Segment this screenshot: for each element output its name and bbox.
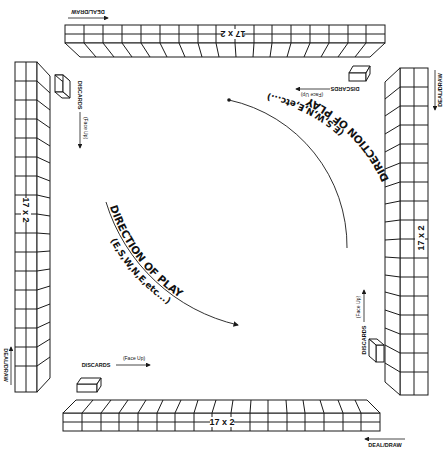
right-deal-draw-label: DEAL/DRAW [437, 73, 443, 107]
left-discard-tile [55, 75, 70, 98]
bottom-discards-label: DISCARDS [82, 362, 111, 368]
right-discard-tile [369, 339, 384, 362]
arc-start-dot [227, 98, 231, 102]
top-discards-label: DISCARDS [330, 86, 359, 92]
top-deal-draw-label: DEAL/DRAW [71, 9, 105, 15]
bottom-face-up-label: (Face Up) [123, 355, 146, 361]
right-discards-label: DISCARDS [361, 325, 367, 354]
bottom-wall-label: 17 x 2 [209, 417, 234, 427]
left-discards-label: DISCARDS [77, 81, 83, 110]
left-deal-draw-label: DEAL/DRAW [3, 348, 9, 382]
mahjong-table-diagram: 17 x 2 DEAL/DRAW DISCARDS (Face Up) [0, 0, 443, 457]
left-face-up-label: (Face Up) [83, 117, 89, 140]
direction-upper-title: DIRECTION OF PLAY [304, 96, 391, 184]
bottom-discard-tile [77, 378, 101, 392]
top-wall-label: 17 x 2 [220, 29, 245, 39]
bottom-deal-draw-label: DEAL/DRAW [368, 442, 402, 448]
left-wall-label: 17 x 2 [21, 197, 31, 222]
right-face-up-label: (Face Up) [355, 296, 361, 319]
left-wall [15, 62, 50, 392]
right-wall-label: 17 x 2 [416, 225, 426, 250]
direction-of-play-lower: DIRECTION OF PLAY (E,S,W,N,E,etc...) [106, 202, 238, 325]
direction-of-play-upper: DIRECTION OF PLAY (E,S,W,N,E,etc...) [227, 92, 391, 248]
top-discard-tile [349, 66, 370, 81]
